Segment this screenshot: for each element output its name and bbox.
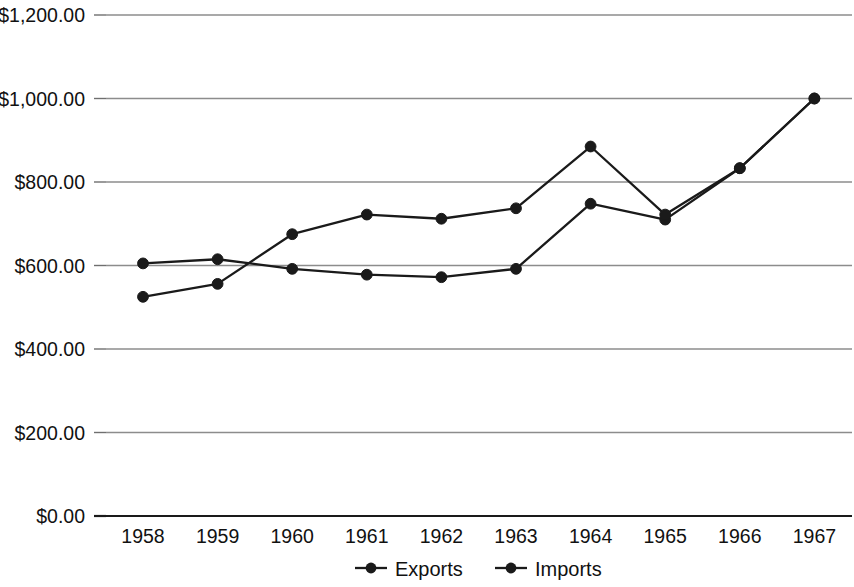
x-axis-tick-label: 1963 [494, 525, 537, 547]
data-point-exports [361, 269, 372, 280]
data-point-exports [138, 258, 149, 269]
data-point-imports [361, 209, 372, 220]
x-axis-tick-label: 1959 [196, 525, 239, 547]
data-point-imports [809, 93, 820, 104]
legend-marker-exports [366, 563, 377, 574]
data-point-imports [734, 163, 745, 174]
chart-container: $0.00$200.00$400.00$600.00$800.00$1,000.… [0, 0, 854, 587]
y-axis-tick-label: $400.00 [15, 338, 86, 360]
x-axis-tick-label: 1958 [121, 525, 164, 547]
data-point-exports [212, 254, 223, 265]
data-point-exports [511, 263, 522, 274]
data-point-imports [436, 213, 447, 224]
data-point-imports [585, 141, 596, 152]
x-axis-tick-label: 1965 [644, 525, 688, 547]
legend-label-exports: Exports [395, 558, 463, 580]
data-point-exports [585, 198, 596, 209]
y-axis-tick-label: $600.00 [15, 255, 86, 277]
data-point-imports [660, 209, 671, 220]
chart-background [0, 0, 854, 587]
data-point-imports [287, 229, 298, 240]
x-axis-tick-label: 1960 [271, 525, 315, 547]
data-point-exports [436, 272, 447, 283]
y-axis-tick-label: $200.00 [15, 422, 86, 444]
y-axis-tick-label: $1,000.00 [0, 88, 85, 110]
data-point-imports [138, 291, 149, 302]
y-axis-tick-label: $1,200.00 [0, 4, 85, 26]
x-axis-tick-label: 1964 [569, 525, 613, 547]
legend-label-imports: Imports [535, 558, 602, 580]
data-point-exports [287, 263, 298, 274]
data-point-imports [511, 203, 522, 214]
y-axis-tick-label: $800.00 [15, 171, 86, 193]
x-axis-tick-label: 1967 [793, 525, 836, 547]
legend-marker-imports [506, 563, 517, 574]
x-axis-tick-label: 1966 [718, 525, 761, 547]
x-axis-tick-label: 1961 [345, 525, 388, 547]
x-axis-tick-label: 1962 [420, 525, 463, 547]
line-chart: $0.00$200.00$400.00$600.00$800.00$1,000.… [0, 0, 854, 587]
data-point-imports [212, 278, 223, 289]
y-axis-tick-label: $0.00 [36, 505, 85, 527]
